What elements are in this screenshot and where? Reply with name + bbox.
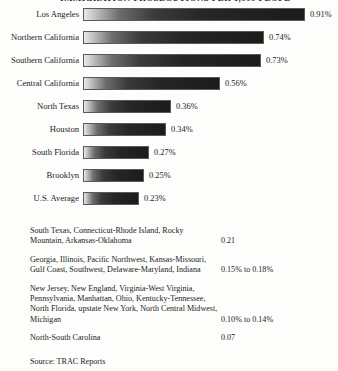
bar-fill [83,169,144,182]
bar-track [83,146,149,159]
bar-fill [83,54,261,67]
bar-category-label: Central California [0,78,79,89]
bar-track [83,123,166,136]
bar-fill [83,123,166,136]
bar-row: North Texas0.36% [0,100,338,123]
horizontal-bar-chart: Los Angeles0.91%Northern California0.74%… [0,8,338,215]
bar-row: Los Angeles0.91% [0,8,338,31]
note-district-names: New Jersey, New England, Virginia-West V… [30,284,218,326]
bar-category-label: Brooklyn [0,170,79,181]
bar-value-label: 0.34% [171,124,193,135]
bar-row: Northern California0.74% [0,31,338,54]
bar-value-label: 0.74% [269,32,291,43]
bar-category-label: Houston [0,124,79,135]
note-district-names: South Texas, Connecticut-Rhode Island, R… [30,226,218,247]
bar-category-label: Southern California [0,55,79,66]
note-row: North-South Carolina0.07North-South Caro… [0,333,338,343]
bar-fill [83,8,305,21]
bar-track [83,169,144,182]
bar-track [83,31,264,44]
bar-row: Southern California0.73% [0,54,338,77]
note-district-names: Georgia, Illinois, Pacific Northwest, Ka… [30,255,218,276]
bar-row: Brooklyn0.25% [0,169,338,192]
bar-value-label: 0.36% [176,101,198,112]
bar-category-label: Northern California [0,32,79,43]
bar-category-label: North Texas [0,101,79,112]
bar-value-label: 0.27% [154,147,176,158]
bar-fill [83,31,264,44]
bar-row: Central California0.56% [0,77,338,100]
note-value: 0.10% to 0.14% [221,315,273,325]
bar-category-label: Los Angeles [0,9,79,20]
bar-value-label: 0.56% [225,78,247,89]
bar-track [83,192,139,205]
note-value: 0.15% to 0.18% [221,265,273,275]
bar-fill [83,77,220,90]
bar-fill [83,100,171,113]
notes-table: South Texas, Connecticut-Rhode Island, R… [0,226,338,352]
bar-fill [83,146,149,159]
bar-row: South Florida0.27% [0,146,338,169]
bar-track [83,8,305,21]
note-row: South Texas, Connecticut-Rhode Island, R… [0,226,338,247]
bar-value-label: 0.25% [149,170,171,181]
bar-track [83,77,220,90]
bar-track [83,100,171,113]
bar-row: Houston0.34% [0,123,338,146]
source-note: Source: TRAC Reports [30,357,105,367]
figure-title-text: IMMIGRATION PROSECUTIONS PER 1,000 PEOPL… [60,0,290,3]
note-row: New Jersey, New England, Virginia-West V… [0,284,338,326]
note-district-names: North-South Carolina [30,333,218,343]
bar-value-label: 0.91% [310,9,332,20]
bar-category-label: South Florida [0,147,79,158]
bar-row: U.S. Average0.23% [0,192,338,215]
bar-value-label: 0.23% [144,193,166,204]
note-row: Georgia, Illinois, Pacific Northwest, Ka… [0,255,338,276]
bar-fill [83,192,139,205]
note-value: 0.07 [221,333,235,343]
chart-figure: IMMIGRATION PROSECUTIONS PER 1,000 PEOPL… [0,0,338,371]
bar-category-label: U.S. Average [0,193,79,204]
note-value: 0.21 [221,236,235,246]
bar-track [83,54,261,67]
bar-value-label: 0.73% [266,55,288,66]
figure-title-cropped: IMMIGRATION PROSECUTIONS PER 1,000 PEOPL… [60,0,290,3]
